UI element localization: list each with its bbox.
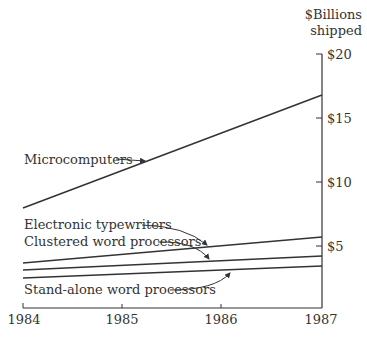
y-tick-label-15: $15 [327, 111, 352, 126]
x-tick-label-1987: 1987 [304, 312, 337, 327]
y-tick-label-5: $5 [327, 239, 344, 254]
line-chart: $Billions shipped $20 $15 $10 $5 1984 19… [0, 0, 367, 349]
label-clustered-word-processors: Clustered word processors [24, 234, 201, 249]
x-tick-label-1985: 1985 [105, 312, 138, 327]
y-tick-label-20: $20 [327, 47, 352, 62]
y-axis-title-line1: $Billions [305, 7, 362, 22]
x-tick-label-1984: 1984 [7, 312, 40, 327]
y-axis-title-line2: shipped [310, 23, 362, 38]
label-electronic-typewriters: Electronic typewriters [24, 217, 172, 232]
x-tick-label-1986: 1986 [204, 312, 237, 327]
y-tick-label-10: $10 [327, 175, 352, 190]
